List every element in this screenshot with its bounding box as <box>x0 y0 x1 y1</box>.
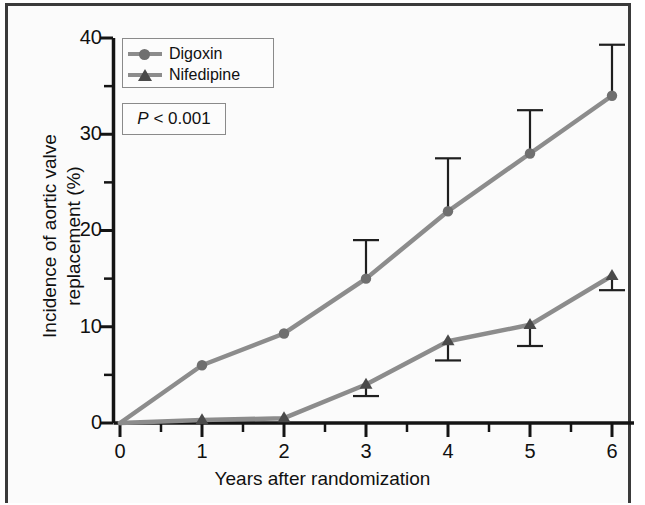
pvalue-symbol: P <box>137 109 148 128</box>
y-axis-title-line2: replacement (%) <box>62 26 86 446</box>
figure-panel: 40 30 20 10 0 0 1 2 3 4 5 6 Years after … <box>0 0 645 505</box>
series-nifedipine <box>120 269 625 424</box>
xtick-label-4: 4 <box>428 440 468 463</box>
x-axis-title: Years after randomization <box>0 468 645 490</box>
data-point-0-6 <box>607 91 617 101</box>
data-point-0-5 <box>525 148 535 158</box>
circle-marker-icon <box>128 46 162 62</box>
legend-label-nifedipine: Nifedipine <box>169 66 240 83</box>
series-digoxin <box>120 45 625 423</box>
xtick-label-2: 2 <box>264 440 304 463</box>
pvalue-value: < 0.001 <box>149 109 211 128</box>
legend-item-nifedipine: Nifedipine <box>128 64 267 85</box>
data-point-0-4 <box>443 206 453 216</box>
y-axis-title-line1: Incidence of aortic valve <box>38 26 62 446</box>
data-point-0-2 <box>279 328 289 338</box>
series-legend: Digoxin Nifedipine <box>122 38 274 88</box>
data-point-0-1 <box>197 360 207 370</box>
xtick-label-0: 0 <box>100 440 140 463</box>
data-point-0-3 <box>361 273 371 283</box>
series-line-1 <box>120 276 612 423</box>
pvalue-text: P < 0.001 <box>137 109 210 129</box>
triangle-marker-icon <box>128 67 162 83</box>
xtick-label-5: 5 <box>510 440 550 463</box>
xtick-label-3: 3 <box>346 440 386 463</box>
legend-label-digoxin: Digoxin <box>169 45 222 62</box>
xtick-label-6: 6 <box>592 440 632 463</box>
data-point-1-6 <box>606 269 619 280</box>
legend-item-digoxin: Digoxin <box>128 43 267 64</box>
xtick-label-1: 1 <box>182 440 222 463</box>
y-axis-title: Incidence of aortic valve replacement (%… <box>38 26 86 446</box>
pvalue-annotation: P < 0.001 <box>122 103 226 135</box>
